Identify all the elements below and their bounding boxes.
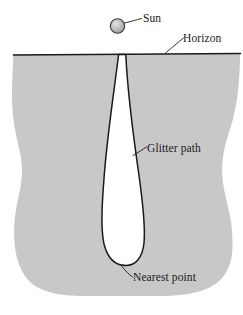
sun-icon [110, 19, 124, 33]
nearest-point-label: Nearest point [133, 272, 196, 284]
horizon-label: Horizon [183, 33, 221, 45]
horizon-leader-line [166, 38, 184, 53]
sun-label: Sun [143, 13, 161, 25]
glitter-path-label: Glitter path [147, 143, 201, 155]
sun-leader-line [125, 19, 142, 24]
figure-container: Sun Horizon Glitter path Nearest point [0, 0, 243, 315]
diagram-svg [0, 0, 243, 315]
